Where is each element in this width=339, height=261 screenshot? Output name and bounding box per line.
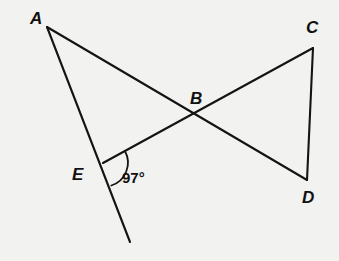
vertex-label-B: B — [190, 89, 202, 108]
segment-A-F — [47, 27, 130, 242]
vertex-label-C: C — [306, 18, 319, 37]
geometry-figure: A B C D E 97° — [0, 0, 339, 261]
segment-C-D — [307, 48, 313, 180]
segment-E-C — [103, 48, 313, 163]
vertex-label-D: D — [302, 188, 314, 207]
vertex-label-A: A — [29, 9, 42, 28]
geometry-canvas: A B C D E 97° — [0, 0, 339, 261]
angle-measure-label: 97° — [122, 169, 145, 186]
segment-A-D — [47, 27, 307, 180]
vertex-label-E: E — [72, 165, 84, 184]
